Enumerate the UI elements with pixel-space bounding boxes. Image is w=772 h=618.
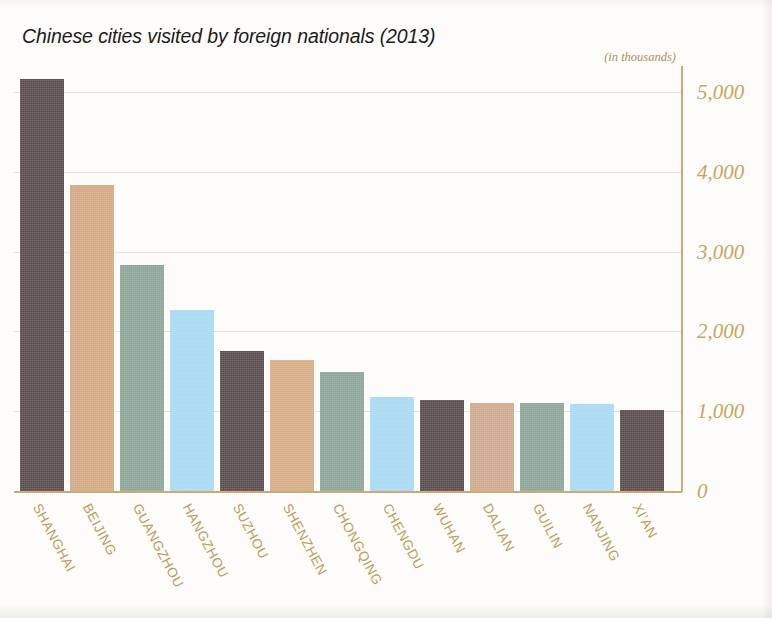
category-label: DALIAN: [480, 501, 518, 554]
category-label: XI'AN: [630, 501, 661, 541]
bar[interactable]: [420, 400, 464, 491]
bar-fill: [620, 410, 664, 491]
category-label: SHENZHEN: [280, 501, 330, 578]
gridline-4000: [14, 172, 682, 173]
plot-area: 01,0002,0003,0004,0005,000 SHANGHAIBEIJI…: [0, 0, 772, 618]
y-tick-label-0: 0: [697, 479, 708, 504]
category-label: NANJING: [580, 501, 623, 564]
y-tick-label-4000: 4,000: [697, 159, 744, 184]
bar[interactable]: [570, 404, 614, 491]
gridline-2000: [14, 331, 682, 332]
bar-fill: [520, 403, 564, 491]
y-tick-label-2000: 2,000: [697, 319, 744, 344]
bar[interactable]: [20, 79, 64, 491]
gridline-5000: [14, 92, 682, 93]
bar-fill: [120, 265, 164, 491]
bar[interactable]: [270, 360, 314, 491]
bar-fill: [270, 360, 314, 491]
category-label: HANGZHOU: [180, 501, 232, 580]
x-axis-line: [14, 491, 682, 493]
bar[interactable]: [620, 410, 664, 491]
bar-fill: [70, 185, 114, 491]
chart-page: Chinese cities visited by foreign nation…: [0, 0, 772, 618]
bar-fill: [170, 310, 214, 491]
bar[interactable]: [170, 310, 214, 491]
category-label: SUZHOU: [230, 501, 272, 562]
bar[interactable]: [120, 265, 164, 491]
bar[interactable]: [320, 372, 364, 491]
bar-fill: [420, 400, 464, 491]
bar-fill: [470, 403, 514, 491]
gridline-3000: [14, 252, 682, 253]
category-label: SHANGHAI: [30, 501, 79, 575]
bar-fill: [320, 372, 364, 491]
category-label: BEIJING: [80, 501, 120, 558]
bar-fill: [370, 397, 414, 491]
bar-fill: [220, 351, 264, 491]
category-label: CHONGQING: [330, 501, 386, 588]
bar-fill: [570, 404, 614, 491]
y-axis-line: [681, 66, 683, 492]
y-tick-label-1000: 1,000: [697, 399, 744, 424]
category-label: WUHAN: [430, 501, 469, 556]
category-label: GUILIN: [530, 501, 566, 551]
bar[interactable]: [220, 351, 264, 491]
bar[interactable]: [470, 403, 514, 491]
bar[interactable]: [520, 403, 564, 491]
y-tick-label-5000: 5,000: [697, 80, 744, 105]
bar[interactable]: [70, 185, 114, 491]
y-tick-label-3000: 3,000: [697, 239, 744, 264]
bar-fill: [20, 79, 64, 491]
category-label: GUANGZHOU: [130, 501, 187, 590]
category-label: CHENGDU: [380, 501, 427, 572]
bar[interactable]: [370, 397, 414, 491]
